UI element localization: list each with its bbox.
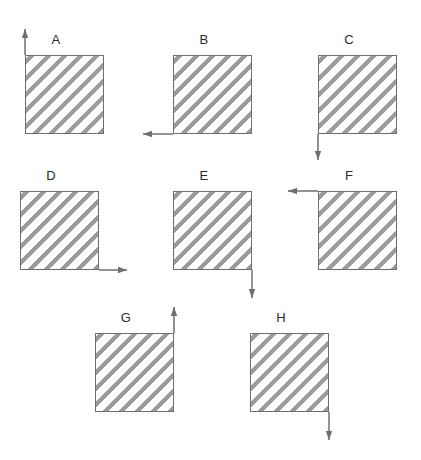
hatched-square-g — [95, 333, 174, 412]
hatched-square-b — [173, 55, 252, 134]
shape-label-c: C — [339, 33, 359, 46]
shape-label-d: D — [41, 169, 61, 182]
hatched-square-c — [318, 55, 397, 134]
hatched-square-a — [25, 55, 104, 134]
shape-label-a: A — [46, 33, 66, 46]
arrow-head-icon — [171, 307, 177, 316]
arrow-head-icon — [118, 267, 127, 273]
shape-label-f: F — [339, 169, 359, 182]
shape-label-h: H — [271, 311, 291, 324]
arrow-head-icon — [326, 431, 332, 440]
shape-label-g: G — [116, 311, 136, 324]
figure-canvas: ABCDEFGH — [0, 0, 421, 460]
arrow-head-icon — [288, 188, 297, 194]
shape-label-b: B — [194, 33, 214, 46]
arrow-head-icon — [22, 29, 28, 38]
arrow-head-icon — [249, 289, 255, 298]
hatched-square-f — [318, 191, 397, 270]
hatched-square-e — [173, 191, 252, 270]
hatched-square-h — [250, 333, 329, 412]
arrow-head-icon — [315, 151, 321, 160]
hatched-square-d — [20, 191, 99, 270]
shape-label-e: E — [194, 169, 214, 182]
arrow-head-icon — [143, 131, 152, 137]
